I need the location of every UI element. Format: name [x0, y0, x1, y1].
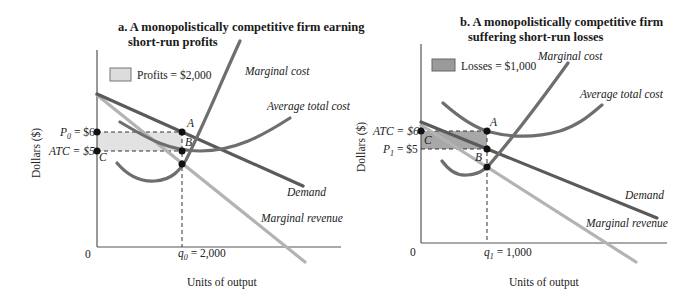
panel-b-title-line2: suffering short-run losses [468, 30, 604, 44]
panel-a-title-line2: short-run profits [128, 35, 218, 49]
point-a-label: A [489, 116, 498, 128]
quantity-label: q0 = 2,000 [178, 247, 226, 262]
x-axis-title: Units of output [187, 276, 257, 289]
panel-a: a. A monopolistically competitive firm e… [30, 20, 365, 289]
point-a [179, 129, 186, 136]
x-axis-title: Units of output [509, 276, 579, 289]
price-label: P1 = $5 [382, 143, 418, 158]
demand-label: Demand [286, 186, 326, 198]
mc-mr-intersection-point [179, 161, 186, 168]
point-c-label: C [99, 151, 107, 163]
losses-legend-label: Losses = $1,000 [461, 60, 536, 73]
quantity-label: q1 = 1,000 [484, 246, 532, 261]
marginal-revenue-label: Marginal revenue [585, 217, 668, 230]
figure: a. A monopolistically competitive firm e… [0, 0, 693, 302]
point-a [484, 128, 491, 135]
profits-legend-label: Profits = $2,000 [137, 69, 212, 82]
marginal-revenue-curve [97, 95, 305, 262]
marginal-revenue-curve [421, 125, 636, 262]
panel-a-title-line1: a. A monopolistically competitive firm e… [118, 20, 365, 34]
origin-label: 0 [85, 248, 91, 260]
point-c-label: C [424, 134, 432, 146]
origin-label: 0 [410, 246, 416, 258]
atc-label: ATC = $5 [48, 145, 95, 157]
atc-label: ATC = $6 [372, 125, 419, 137]
panel-b-title-line1: b. A monopolistically competitive firm [460, 15, 664, 29]
marginal-cost-label: Marginal cost [244, 65, 310, 78]
marginal-revenue-label: Marginal revenue [260, 212, 343, 225]
point-b [179, 148, 186, 155]
point-b-label: B [185, 136, 192, 148]
point-b [484, 146, 491, 153]
y-axis-title: Dollars ($) [30, 128, 43, 178]
mc-mr-intersection-point [484, 164, 491, 171]
average-total-cost-label: Average total cost [579, 88, 664, 101]
price-label: P0 = $6 [59, 126, 95, 141]
demand-label: Demand [624, 189, 664, 201]
losses-legend-swatch [432, 59, 455, 71]
y-axis-title: Dollars ($) [355, 122, 368, 172]
point-b-label: B [475, 151, 482, 163]
profits-legend-swatch [110, 68, 131, 81]
panel-b: b. A monopolistically competitive firm s… [355, 15, 668, 289]
average-total-cost-label: Average total cost [266, 100, 351, 113]
point-a-label: A [186, 117, 195, 129]
marginal-cost-label: Marginal cost [537, 50, 603, 63]
